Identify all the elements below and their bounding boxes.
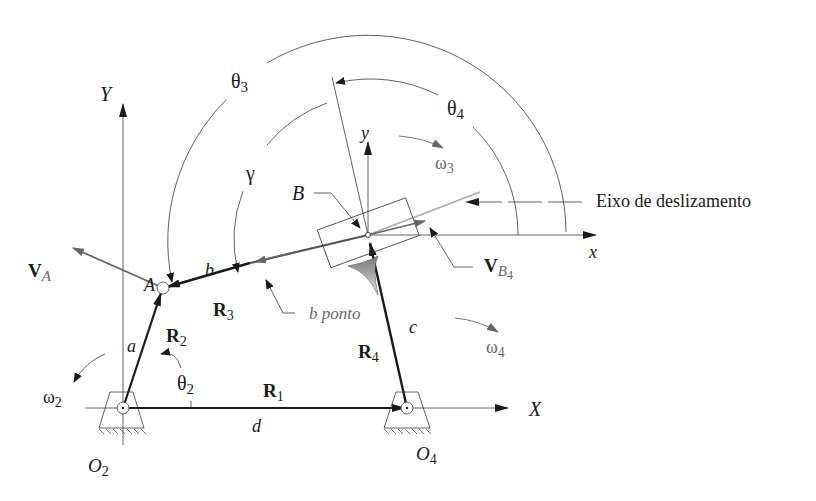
- label-theta2: θ2: [177, 372, 194, 397]
- label-omega3: ω3: [435, 153, 454, 176]
- theta3-arc: [267, 35, 566, 232]
- label-b-ponto: b ponto: [309, 304, 360, 323]
- pin-a: [157, 282, 169, 294]
- pin-b: [366, 233, 371, 238]
- theta4-arc-right: [473, 127, 518, 235]
- fourbar-slider-diagram: Y X y x θ3 θ4 γ θ2 ω3 ω4 ω2 B A b a c d …: [0, 0, 816, 501]
- slider-normal-line: [332, 77, 368, 235]
- label-O2: O2: [88, 455, 109, 479]
- theta2-leader: [161, 353, 181, 368]
- link-r3-b-arrow: [255, 251, 300, 262]
- slide-axis-extension: [368, 192, 480, 235]
- label-VB4: VB4: [484, 255, 513, 282]
- label-x: x: [588, 242, 597, 262]
- label-eixo-deslizamento: Eixo de deslizamento: [596, 191, 751, 211]
- label-VA: VA: [28, 260, 52, 284]
- label-b: b: [205, 260, 214, 280]
- b-ponto-leader: [266, 280, 295, 313]
- label-O4: O4: [416, 443, 437, 467]
- label-R2: R2: [166, 325, 187, 349]
- ground-o2: [99, 392, 146, 434]
- omega3-arrow: [399, 136, 443, 148]
- label-d: d: [252, 416, 262, 436]
- theta3-arc-left: [168, 100, 226, 282]
- theta4-arc: [336, 79, 438, 95]
- omega2-arrow: [74, 354, 105, 382]
- link-r4: [370, 243, 407, 408]
- vb4-leader: [430, 228, 473, 267]
- ground-o4: [384, 392, 431, 434]
- label-a: a: [127, 336, 136, 356]
- label-gamma: γ: [245, 162, 255, 185]
- label-Y: Y: [100, 83, 113, 105]
- label-R1: R1: [263, 380, 284, 404]
- label-omega2: ω2: [43, 387, 62, 410]
- label-y: y: [359, 123, 369, 143]
- gamma-arc-bottom: [234, 191, 243, 272]
- label-omega4: ω4: [486, 337, 505, 360]
- label-c: c: [409, 317, 417, 337]
- gamma-arc-top: [267, 103, 327, 145]
- label-theta3: θ3: [231, 70, 248, 95]
- omega4-arrow: [455, 318, 498, 332]
- slider-fillet: [348, 256, 378, 295]
- label-A: A: [143, 275, 156, 295]
- label-B: B: [292, 182, 304, 204]
- label-R3: R3: [213, 299, 234, 323]
- label-R4: R4: [358, 341, 379, 365]
- label-X: X: [528, 398, 542, 420]
- label-theta4: θ4: [447, 97, 465, 122]
